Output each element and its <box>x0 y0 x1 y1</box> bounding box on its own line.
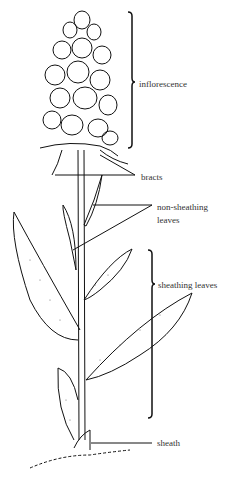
label-sheath: sheath <box>157 437 180 449</box>
sheathing-leaf-right-lower <box>86 293 192 380</box>
ground <box>30 450 130 468</box>
stem <box>78 150 85 440</box>
label-inflorescence: inflorescence <box>139 78 187 90</box>
bracts-pointer <box>55 155 135 175</box>
non-sheathing-leaf-lower <box>63 205 76 270</box>
label-non-sheathing-leaves-line1: non-sheathing <box>157 201 208 213</box>
non-sheathing-leaf-upper <box>84 175 102 226</box>
label-non-sheathing-leaves-line2: leaves <box>157 214 180 226</box>
sheathing-leaf-left <box>13 212 80 340</box>
non-sheathing-pointer <box>73 205 152 250</box>
inflorescence-bracket <box>128 12 135 148</box>
label-sheathing-leaves: sheathing leaves <box>158 279 217 291</box>
label-bracts: bracts <box>141 171 163 183</box>
orchid-illustration <box>0 0 225 482</box>
sheathing-leaves-bracket <box>148 250 155 418</box>
sheathing-leaf-base <box>58 368 78 440</box>
sheath-drawing <box>74 430 90 450</box>
